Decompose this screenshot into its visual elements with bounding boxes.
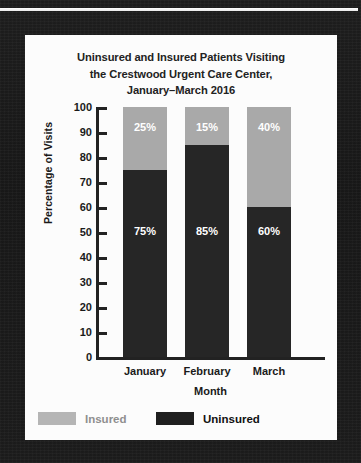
bar-label-january-uninsured: 75%	[123, 225, 167, 237]
x-axis-title: Month	[96, 385, 325, 397]
y-tick-label-100: 100	[56, 101, 92, 113]
legend-label-uninsured: Uninsured	[203, 413, 260, 425]
page-edge-line	[0, 8, 358, 11]
legend-label-insured: Insured	[85, 413, 127, 425]
bar-segment-january-insured[interactable]	[123, 107, 167, 170]
legend-swatch-insured-icon	[38, 412, 76, 425]
y-tick-50	[99, 232, 107, 235]
y-tick-10	[99, 332, 107, 335]
y-tick-70	[99, 182, 107, 185]
y-tick-label-60: 60	[56, 201, 92, 213]
y-tick-60	[99, 207, 107, 210]
y-tick-label-20: 20	[56, 301, 92, 313]
stacked-bar-january[interactable]: 75% 25%	[123, 107, 167, 357]
bar-segment-february-uninsured[interactable]	[185, 145, 229, 358]
bar-label-february-uninsured: 85%	[185, 225, 229, 237]
chart-title-line-2: the Crestwood Urgent Care Center,	[25, 66, 337, 83]
bar-segment-january-uninsured[interactable]	[123, 170, 167, 358]
y-tick-40	[99, 257, 107, 260]
x-tick-label-march: March	[224, 365, 314, 377]
legend-item-uninsured[interactable]: Uninsured	[156, 412, 260, 425]
y-tick-20	[99, 307, 107, 310]
y-tick-label-80: 80	[56, 151, 92, 163]
y-tick-label-40: 40	[56, 251, 92, 263]
chart-title-line-1: Uninsured and Insured Patients Visiting	[25, 49, 337, 66]
y-tick-label-0: 0	[56, 351, 92, 363]
y-tick-label-10: 10	[56, 326, 92, 338]
plot-area: 100 90 80 70 60 50 40 30 20 10 0 Percent…	[96, 107, 337, 393]
y-tick-label-90: 90	[56, 126, 92, 138]
chart-title-line-3: January–March 2016	[25, 82, 337, 99]
bar-label-january-insured: 25%	[123, 121, 167, 133]
chart-title: Uninsured and Insured Patients Visiting …	[25, 49, 337, 99]
chart-card: Uninsured and Insured Patients Visiting …	[25, 35, 337, 440]
y-tick-label-70: 70	[56, 176, 92, 188]
stacked-bar-february[interactable]: 85% 15%	[185, 107, 229, 357]
y-tick-30	[99, 282, 107, 285]
y-tick-label-30: 30	[56, 276, 92, 288]
bar-label-february-insured: 15%	[185, 121, 229, 133]
legend-swatch-uninsured-icon	[156, 412, 194, 425]
legend-item-insured[interactable]: Insured	[38, 412, 127, 425]
y-tick-label-50: 50	[56, 226, 92, 238]
bar-label-march-uninsured: 60%	[247, 225, 291, 237]
y-axis-title: Percentage of Visits	[42, 103, 54, 243]
y-axis-tick-labels: 100 90 80 70 60 50 40 30 20 10 0	[52, 107, 92, 360]
bar-label-march-insured: 40%	[247, 121, 291, 133]
y-tick-90	[99, 132, 107, 135]
y-tick-100	[99, 107, 107, 110]
y-tick-80	[99, 157, 107, 160]
x-axis-line	[96, 357, 325, 360]
stacked-bar-march[interactable]: 60% 40%	[247, 107, 291, 357]
chart-legend: Insured Uninsured	[25, 412, 337, 434]
